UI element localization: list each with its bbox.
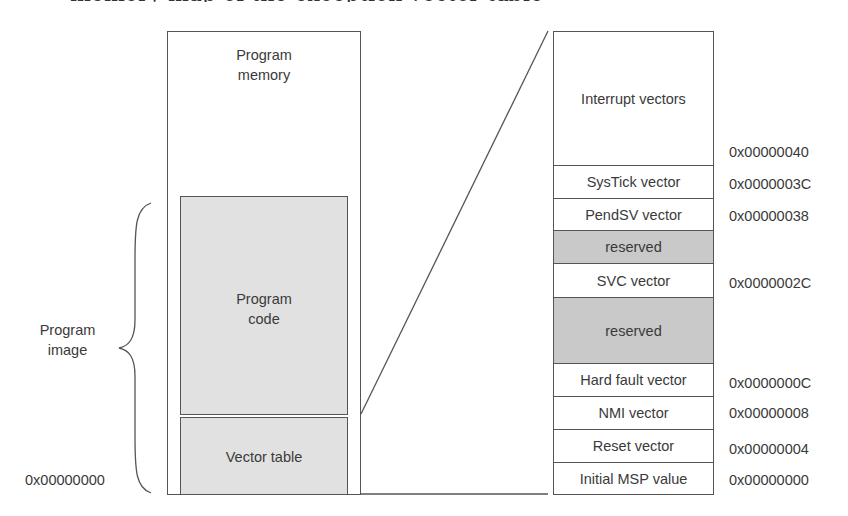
address-0x40: 0x00000040 [729, 143, 809, 161]
program-image-label-line1: Program [20, 320, 115, 340]
row-label: Reset vector [593, 438, 674, 454]
program-image-label-line2: image [20, 340, 115, 360]
base-address-label: 0x00000000 [25, 471, 105, 489]
zoom-diagonal-line [361, 31, 548, 414]
row-initial-msp-value: Initial MSP value [554, 462, 713, 494]
program-image-label: Program image [20, 320, 115, 360]
program-code-label-line1: Program [180, 289, 348, 309]
program-image-brace-icon [119, 203, 151, 493]
row-label: Hard fault vector [580, 372, 686, 388]
row-label: SVC vector [597, 273, 670, 289]
address-0x38: 0x00000038 [729, 207, 809, 225]
row-hard-fault-vector: Hard fault vector [554, 363, 713, 396]
row-pendsv-vector: PendSV vector [554, 198, 713, 230]
address-0x04: 0x00000004 [729, 440, 809, 458]
row-systick-vector: SysTick vector [554, 165, 713, 198]
address-0x2c: 0x0000002C [729, 274, 811, 292]
address-0x3c: 0x0000003C [729, 175, 811, 193]
row-label: NMI vector [598, 405, 668, 421]
program-memory-label-line1: Program [167, 45, 361, 65]
row-label: reserved [605, 323, 661, 339]
vector-table-label: Vector table [180, 447, 348, 467]
row-label: Initial MSP value [580, 471, 688, 487]
program-code-label: Program code [180, 289, 348, 329]
address-0x0c: 0x0000000C [729, 374, 811, 392]
program-memory-label-line2: memory [167, 65, 361, 85]
row-reset-vector: Reset vector [554, 429, 713, 462]
row-reserved-2: reserved [554, 297, 713, 363]
row-label: Interrupt vectors [581, 91, 686, 107]
program-code-label-line2: code [180, 309, 348, 329]
address-0x00: 0x00000000 [729, 471, 809, 489]
row-svc-vector: SVC vector [554, 263, 713, 297]
program-memory-label: Program memory [167, 45, 361, 85]
row-nmi-vector: NMI vector [554, 396, 713, 429]
row-label: SysTick vector [587, 174, 681, 190]
connector-lines [0, 0, 848, 516]
row-label: reserved [605, 239, 661, 255]
row-interrupt-vectors: Interrupt vectors [554, 32, 713, 165]
row-reserved-1: reserved [554, 230, 713, 263]
address-0x08: 0x00000008 [729, 404, 809, 422]
vector-table-detail: Interrupt vectors SysTick vector PendSV … [553, 31, 714, 495]
row-label: PendSV vector [585, 207, 682, 223]
